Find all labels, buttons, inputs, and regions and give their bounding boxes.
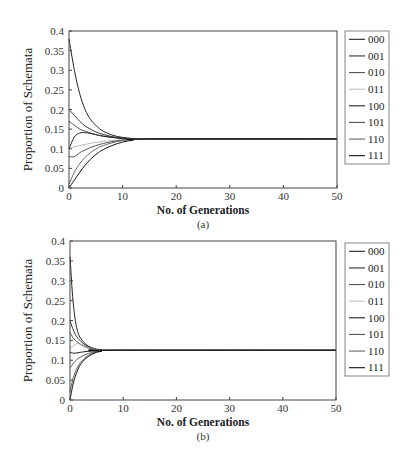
series-line-101 xyxy=(69,139,337,157)
y-axis-ticks: 00.050.10.150.20.250.30.350.4 xyxy=(45,25,72,194)
x-tick-label: 10 xyxy=(118,402,130,414)
series-line-111 xyxy=(69,139,337,188)
series-line-011 xyxy=(70,344,336,351)
x-tick-label: 50 xyxy=(331,402,343,414)
series-lines xyxy=(70,257,336,400)
x-tick-label: 30 xyxy=(224,402,236,414)
y-tick-label: 0.25 xyxy=(46,295,66,307)
legend: 000001010011100101110111 xyxy=(345,31,389,164)
panel-caption: (b) xyxy=(197,430,210,443)
series-line-110 xyxy=(69,139,337,184)
legend-label: 000 xyxy=(368,245,385,257)
series-line-010 xyxy=(70,332,336,350)
y-axis-ticks: 00.050.10.150.20.250.30.350.4 xyxy=(46,235,73,406)
series-line-001 xyxy=(70,321,336,351)
legend-label: 001 xyxy=(368,262,385,274)
legend-label: 010 xyxy=(368,66,385,78)
x-tick-label: 10 xyxy=(117,190,129,202)
y-tick-label: 0.1 xyxy=(50,143,64,155)
y-tick-label: 0.3 xyxy=(51,275,65,287)
y-tick-label: 0.4 xyxy=(51,235,65,247)
x-tick-label: 0 xyxy=(66,190,72,202)
y-tick-label: 0.25 xyxy=(45,84,65,96)
series-line-000 xyxy=(70,257,336,350)
x-tick-label: 30 xyxy=(224,190,236,202)
legend-label: 101 xyxy=(368,116,385,128)
legend-label: 100 xyxy=(368,100,385,112)
legend-label: 111 xyxy=(368,149,384,161)
y-tick-label: 0.35 xyxy=(45,45,65,57)
y-tick-label: 0 xyxy=(60,394,66,406)
legend-label: 111 xyxy=(368,361,384,373)
y-tick-label: 0.15 xyxy=(45,123,65,135)
y-tick-label: 0.2 xyxy=(51,315,65,327)
x-tick-label: 40 xyxy=(277,402,289,414)
y-axis-label: Proportion of Schemata xyxy=(20,48,35,172)
legend: 000001010011100101110111 xyxy=(345,243,389,376)
x-axis-label: No. of Generations xyxy=(157,416,250,428)
legend-label: 011 xyxy=(368,295,384,307)
y-tick-label: 0.1 xyxy=(51,354,65,366)
x-tick-label: 50 xyxy=(332,190,344,202)
series-line-101 xyxy=(70,350,336,368)
y-tick-label: 0.15 xyxy=(46,334,66,346)
series-line-000 xyxy=(69,39,337,139)
y-tick-label: 0.35 xyxy=(46,255,66,267)
chart-panel-b: 01020304050 00.050.10.150.20.250.30.350.… xyxy=(20,235,389,443)
legend-label: 101 xyxy=(368,328,385,340)
legend-label: 100 xyxy=(368,312,385,324)
x-tick-label: 20 xyxy=(171,402,183,414)
legend-label: 110 xyxy=(368,133,385,145)
series-line-001 xyxy=(69,110,337,139)
figure: 01020304050 00.050.10.150.20.250.30.350.… xyxy=(0,0,408,456)
legend-label: 010 xyxy=(368,278,385,290)
plot-frame xyxy=(69,31,337,188)
plot-frame xyxy=(70,241,336,400)
y-tick-label: 0 xyxy=(59,182,65,194)
x-tick-label: 20 xyxy=(171,190,183,202)
y-tick-label: 0.4 xyxy=(50,25,64,37)
y-axis-label: Proportion of Schemata xyxy=(20,259,35,383)
x-tick-label: 40 xyxy=(278,190,290,202)
y-tick-label: 0.05 xyxy=(46,374,66,386)
legend-label: 011 xyxy=(368,83,384,95)
y-tick-label: 0.2 xyxy=(50,104,64,116)
chart-panel-a: 01020304050 00.050.10.150.20.250.30.350.… xyxy=(20,25,389,231)
legend-label: 110 xyxy=(368,345,385,357)
y-tick-label: 0.3 xyxy=(50,64,64,76)
legend-label: 000 xyxy=(368,33,385,45)
panel-caption: (a) xyxy=(197,218,210,231)
x-axis-label: No. of Generations xyxy=(157,204,250,216)
legend-label: 001 xyxy=(368,50,385,62)
y-tick-label: 0.05 xyxy=(45,162,65,174)
series-line-110 xyxy=(70,350,336,392)
x-tick-label: 0 xyxy=(67,402,73,414)
series-lines xyxy=(69,39,337,188)
series-line-111 xyxy=(70,350,336,400)
